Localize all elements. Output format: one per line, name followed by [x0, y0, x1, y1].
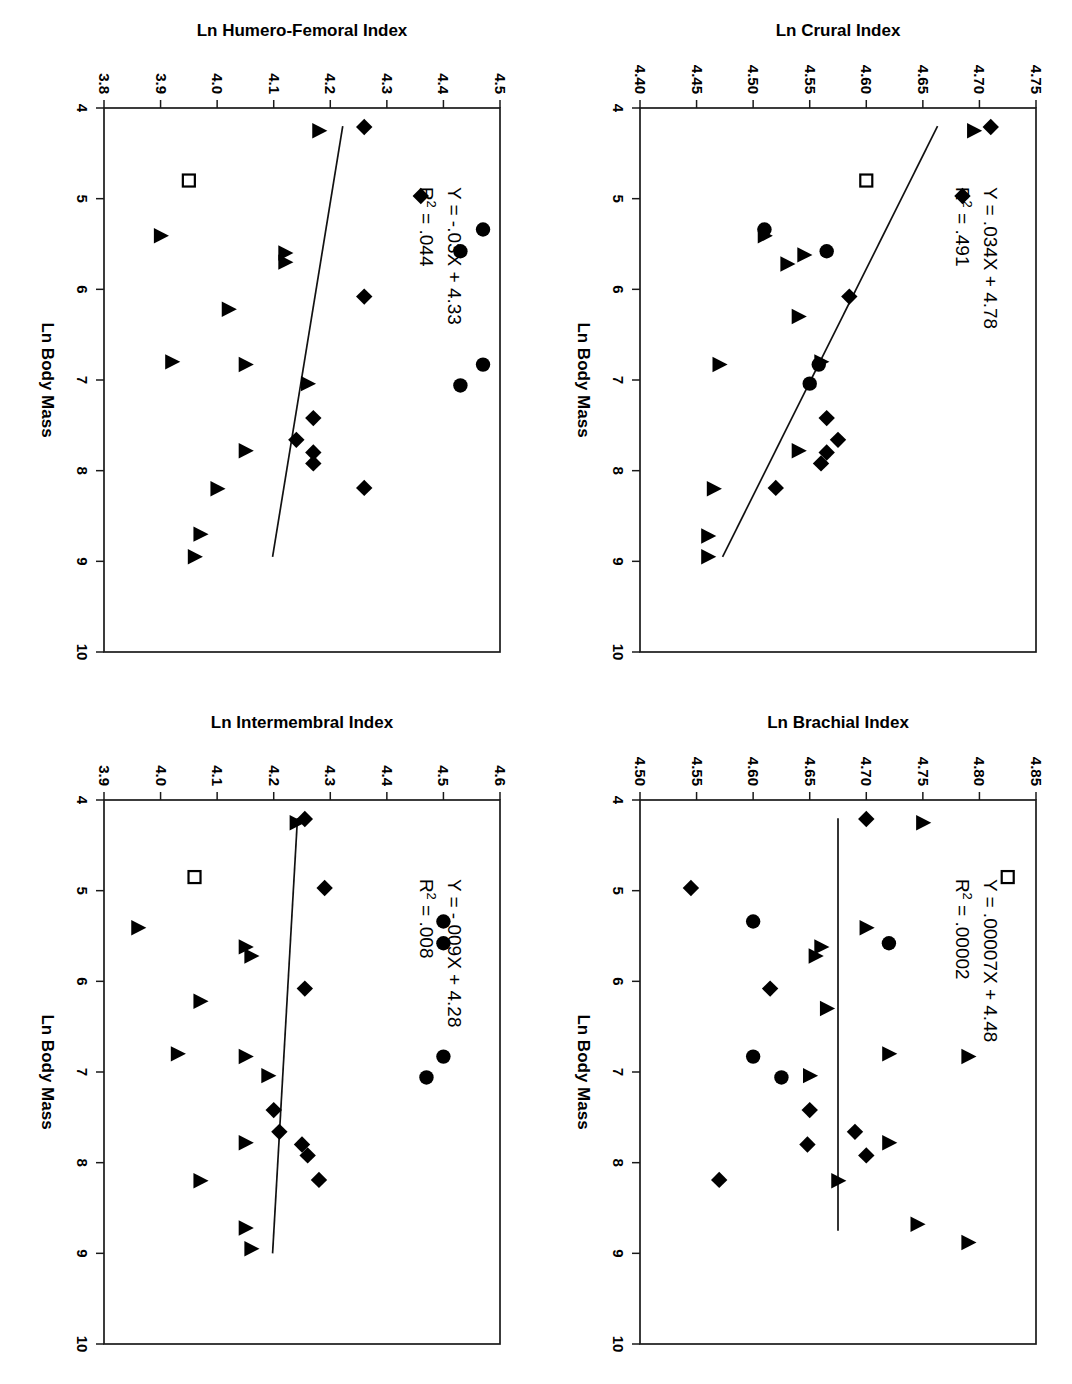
plot-frame: [640, 108, 1036, 652]
scatter-humero-femoral: 456789103.83.94.04.14.24.34.44.5Ln Body …: [18, 16, 518, 676]
data-point-triangle: [239, 1049, 254, 1064]
x-tick-label: 4: [74, 796, 91, 805]
chart-cell-crural: 456789104.404.454.504.554.604.654.704.75…: [536, 0, 1072, 692]
data-point-circle: [476, 222, 490, 236]
y-tick-label: 4.3: [379, 73, 396, 94]
regression-line: [723, 126, 938, 557]
x-axis-title: Ln Body Mass: [574, 322, 593, 437]
regression-equation-label: Y = .00007X + 4.48: [980, 879, 1001, 1042]
y-tick-label: 4.1: [266, 73, 283, 94]
x-axis-title: Ln Body Mass: [574, 1014, 593, 1129]
data-point-circle: [882, 936, 896, 950]
data-point-circle: [746, 1049, 760, 1063]
data-point-diamond: [297, 980, 313, 996]
y-tick-label: 3.9: [96, 765, 113, 786]
data-point-triangle: [301, 376, 316, 391]
data-point-triangle: [193, 526, 208, 541]
y-tick-label: 4.85: [1028, 757, 1045, 786]
data-point-diamond: [762, 980, 778, 996]
x-tick-label: 7: [74, 1068, 91, 1076]
data-point-triangle: [210, 481, 225, 496]
data-point-circle: [419, 1070, 433, 1084]
data-point-diamond: [356, 288, 372, 304]
data-point-diamond: [847, 1124, 863, 1140]
regression-equation-label: Y = .034X + 4.78: [980, 187, 1001, 329]
data-point-diamond: [305, 410, 321, 426]
x-tick-label: 10: [74, 644, 91, 661]
y-tick-label: 4.55: [689, 757, 706, 786]
data-point-triangle: [961, 1049, 976, 1064]
scatter-brachial: 456789104.504.554.604.654.704.754.804.85…: [554, 708, 1054, 1368]
data-point-triangle: [780, 256, 795, 271]
y-tick-label: 4.60: [745, 757, 762, 786]
y-tick-label: 4.6: [492, 765, 509, 786]
data-point-triangle: [239, 443, 254, 458]
data-point-triangle: [701, 549, 716, 564]
y-tick-label: 4.2: [266, 765, 283, 786]
data-point-triangle: [820, 1001, 835, 1016]
data-point-open-square: [183, 175, 195, 187]
y-tick-label: 4.4: [435, 73, 452, 95]
plot-intermembral: 456789103.94.04.14.24.34.44.54.6Ln Body …: [18, 708, 518, 1368]
data-point-diamond: [711, 1172, 727, 1188]
y-tick-label: 4.65: [915, 65, 932, 94]
data-point-triangle: [312, 123, 327, 138]
data-point-diamond: [858, 1147, 874, 1163]
y-tick-label: 4.45: [689, 65, 706, 94]
data-point-triangle: [222, 302, 237, 317]
data-point-triangle: [154, 228, 169, 243]
plot-brachial: 456789104.504.554.604.654.704.754.804.85…: [554, 708, 1054, 1368]
r-squared-label: R2 = .008: [416, 879, 440, 959]
data-point-triangle: [882, 1135, 897, 1150]
data-point-diamond: [983, 119, 999, 135]
y-tick-label: 4.0: [209, 73, 226, 94]
y-tick-label: 4.2: [322, 73, 339, 94]
y-tick-label: 4.70: [971, 65, 988, 94]
y-tick-label: 4.60: [858, 65, 875, 94]
x-tick-label: 7: [610, 376, 627, 384]
y-axis-title: Ln Humero-Femoral Index: [197, 21, 408, 40]
x-tick-label: 9: [74, 1249, 91, 1257]
x-tick-label: 9: [74, 557, 91, 565]
x-tick-label: 5: [74, 886, 91, 894]
y-tick-label: 4.5: [492, 73, 509, 94]
scatter-crural: 456789104.404.454.504.554.604.654.704.75…: [554, 16, 1054, 676]
r-squared-label: R2 = .044: [416, 187, 440, 267]
chart-cell-intermembral: 456789103.94.04.14.24.34.44.54.6Ln Body …: [0, 692, 536, 1384]
data-point-circle: [476, 357, 490, 371]
data-point-triangle: [171, 1046, 186, 1061]
data-point-triangle: [244, 1241, 259, 1256]
r-squared-label: R2 = .00002: [952, 879, 976, 980]
x-tick-label: 8: [74, 1158, 91, 1166]
data-point-triangle: [239, 1220, 254, 1235]
x-axis-title: Ln Body Mass: [38, 322, 57, 437]
data-point-triangle: [803, 1068, 818, 1083]
r-squared-label: R2 = .491: [952, 187, 976, 267]
data-point-circle: [453, 378, 467, 392]
regression-equation-label: Y = -.009X + 4.28: [444, 879, 465, 1028]
x-tick-label: 8: [74, 466, 91, 474]
y-tick-label: 4.0: [153, 765, 170, 786]
x-tick-label: 4: [74, 104, 91, 113]
data-point-triangle: [131, 920, 146, 935]
data-point-diamond: [683, 880, 699, 896]
y-tick-label: 4.80: [971, 757, 988, 786]
data-point-triangle: [244, 948, 259, 963]
x-tick-label: 7: [74, 376, 91, 384]
y-tick-label: 4.70: [858, 757, 875, 786]
x-tick-label: 10: [610, 644, 627, 661]
data-point-diamond: [356, 480, 372, 496]
data-point-triangle: [860, 920, 875, 935]
y-tick-label: 4.75: [915, 757, 932, 786]
data-point-circle: [803, 376, 817, 390]
data-point-circle: [436, 1049, 450, 1063]
data-point-triangle: [792, 443, 807, 458]
data-point-diamond: [799, 1136, 815, 1152]
figure-sheet: 456789103.83.94.04.14.24.34.44.5Ln Body …: [0, 0, 1072, 1384]
data-point-diamond: [818, 410, 834, 426]
data-point-diamond: [802, 1102, 818, 1118]
x-tick-label: 6: [610, 977, 627, 985]
data-point-triangle: [188, 549, 203, 564]
data-point-diamond: [356, 119, 372, 135]
y-tick-label: 3.9: [153, 73, 170, 94]
